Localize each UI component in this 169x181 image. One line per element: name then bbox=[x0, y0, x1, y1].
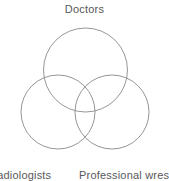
venn-label-professional-wrestlers: Professional wrestlers bbox=[79, 169, 169, 181]
venn-circle-doctors bbox=[44, 28, 128, 112]
venn-diagram-figure: Doctors Radiologists Professional wrestl… bbox=[0, 0, 169, 181]
venn-label-radiologists: Radiologists bbox=[0, 169, 51, 181]
venn-circles-canvas bbox=[0, 0, 169, 181]
